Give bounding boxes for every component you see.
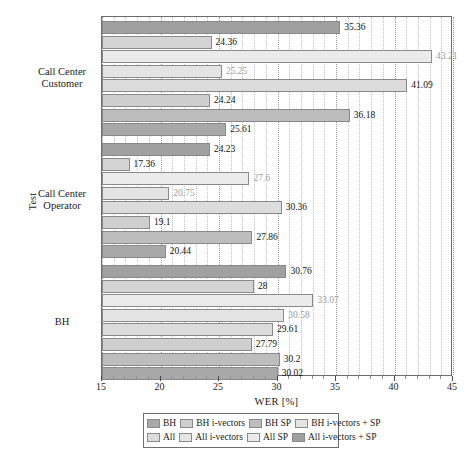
legend-swatch-icon bbox=[292, 433, 305, 442]
bar bbox=[102, 265, 286, 278]
category-label-line: Operator bbox=[26, 200, 98, 212]
legend-swatch-icon bbox=[179, 433, 192, 442]
x-tick-label: 45 bbox=[447, 381, 457, 392]
gridline-minor bbox=[406, 17, 408, 375]
legend-swatch-icon bbox=[180, 419, 193, 428]
x-tick-minor bbox=[382, 376, 383, 379]
x-tick-minor bbox=[370, 376, 371, 379]
bar bbox=[102, 143, 210, 156]
legend-item[interactable]: All i-vectors bbox=[179, 432, 243, 443]
category-label: BH bbox=[26, 316, 98, 328]
category-label-line: Customer bbox=[26, 78, 98, 90]
bar-value-label: 35.36 bbox=[344, 21, 365, 34]
x-axis-tick-labels: 15202530354045 bbox=[101, 381, 452, 395]
x-tick-minor bbox=[300, 376, 301, 379]
bar bbox=[102, 231, 252, 244]
gridline-minor bbox=[348, 17, 350, 375]
gridline-minor bbox=[371, 17, 373, 375]
x-tick-label: 30 bbox=[272, 381, 282, 392]
legend-label: BH i-vectors + SP bbox=[311, 418, 380, 429]
legend-label: All i-vectors bbox=[195, 432, 243, 443]
bar bbox=[102, 158, 130, 171]
gridline-major bbox=[336, 17, 338, 375]
x-tick-minor bbox=[124, 376, 125, 379]
bar bbox=[102, 123, 226, 136]
bar bbox=[102, 216, 150, 229]
gridline-minor bbox=[313, 17, 315, 375]
bar-value-label: 30.36 bbox=[286, 201, 307, 214]
x-tick-label: 25 bbox=[213, 381, 223, 392]
x-tick-minor bbox=[241, 376, 242, 379]
bar-value-label: 20.44 bbox=[170, 245, 191, 258]
category-label-line: Call Center bbox=[26, 188, 98, 200]
x-tick-minor bbox=[323, 376, 324, 379]
x-tick-minor bbox=[148, 376, 149, 379]
bar-chart: Test Call CenterCustomerCall CenterOpera… bbox=[0, 0, 475, 464]
bar bbox=[102, 50, 432, 63]
bar bbox=[102, 280, 254, 293]
bar bbox=[102, 323, 273, 336]
legend-item[interactable]: BH bbox=[147, 418, 176, 429]
legend-label: BH bbox=[163, 418, 176, 429]
bar-value-label: 30.58 bbox=[288, 309, 309, 322]
x-tick-minor bbox=[230, 376, 231, 379]
bar bbox=[102, 21, 340, 34]
legend-label: All bbox=[163, 432, 175, 443]
bar bbox=[102, 201, 282, 214]
legend-item[interactable]: BH SP bbox=[249, 418, 291, 429]
x-tick-label: 15 bbox=[96, 381, 106, 392]
bar-value-label: 25.25 bbox=[226, 65, 247, 78]
x-tick-minor bbox=[405, 376, 406, 379]
legend-label: BH SP bbox=[265, 418, 291, 429]
bar-value-label: 20.75 bbox=[173, 187, 194, 200]
gridline-major bbox=[395, 17, 397, 375]
x-tick-minor bbox=[171, 376, 172, 379]
legend-item[interactable]: All i-vectors + SP bbox=[292, 432, 376, 443]
x-tick-minor bbox=[288, 376, 289, 379]
x-tick-label: 40 bbox=[389, 381, 399, 392]
gridline-minor bbox=[383, 17, 385, 375]
legend-label: BH i-vectors bbox=[196, 418, 245, 429]
legend-swatch-icon bbox=[295, 419, 308, 428]
bar bbox=[102, 245, 166, 258]
bar bbox=[102, 309, 284, 322]
category-label-line: Call Center bbox=[26, 66, 98, 78]
x-tick-minor bbox=[429, 376, 430, 379]
x-tick-minor bbox=[206, 376, 207, 379]
category-label: Call CenterCustomer bbox=[26, 66, 98, 90]
legend-item[interactable]: All SP bbox=[247, 432, 288, 443]
x-tick-minor bbox=[136, 376, 137, 379]
bar bbox=[102, 187, 169, 200]
x-tick-minor bbox=[195, 376, 196, 379]
legend-row-all: AllAll i-vectorsAll SPAll i-vectors + SP bbox=[147, 430, 335, 444]
bar-value-label: 41.09 bbox=[411, 79, 432, 92]
bar-value-label: 27.6 bbox=[253, 172, 270, 185]
bar-value-label: 24.24 bbox=[214, 94, 235, 107]
bar bbox=[102, 94, 210, 107]
bar bbox=[102, 353, 280, 366]
legend: BHBH i-vectorsBH SPBH i-vectors + SP All… bbox=[143, 413, 339, 448]
legend-item[interactable]: BH i-vectors bbox=[180, 418, 245, 429]
gridline-minor bbox=[441, 17, 443, 375]
x-tick-minor bbox=[440, 376, 441, 379]
x-tick-minor bbox=[113, 376, 114, 379]
plot-area: 35.3624.3643.2125.2541.0924.2436.1825.61… bbox=[101, 16, 452, 376]
bar-value-label: 27.79 bbox=[256, 338, 277, 351]
gridline-minor bbox=[430, 17, 432, 375]
x-tick-label: 35 bbox=[330, 381, 340, 392]
legend-item[interactable]: BH i-vectors + SP bbox=[295, 418, 380, 429]
gridline-minor bbox=[418, 17, 420, 375]
bar-value-label: 25.61 bbox=[230, 123, 251, 136]
bar-value-label: 19.1 bbox=[154, 216, 171, 229]
bar-value-label: 36.18 bbox=[354, 109, 375, 122]
bar-value-label: 17.36 bbox=[134, 158, 155, 171]
x-tick-minor bbox=[417, 376, 418, 379]
bar-value-label: 30.76 bbox=[290, 265, 311, 278]
gridline-minor bbox=[359, 17, 361, 375]
bar-value-label: 28 bbox=[258, 280, 268, 293]
legend-swatch-icon bbox=[247, 433, 260, 442]
legend-item[interactable]: All bbox=[147, 432, 175, 443]
x-axis-title: WER [%] bbox=[101, 396, 452, 407]
x-tick-minor bbox=[358, 376, 359, 379]
x-tick-minor bbox=[347, 376, 348, 379]
